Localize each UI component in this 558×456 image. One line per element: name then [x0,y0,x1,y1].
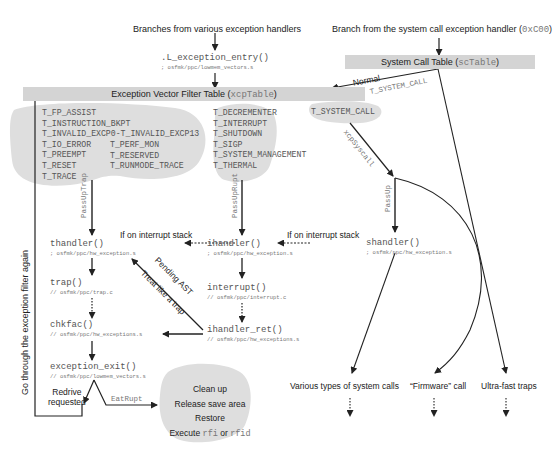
node-interrupt-path: // osfmk/ppc/interrupt.c [207,294,286,301]
node-chkfac-path: // osfmk/ppc/hw_exceptions.s [50,331,142,338]
edge-eatrupt-label: EatRupt [111,395,143,403]
node-exception-exit-path: // osfmk/ppc/lowmem_vectors.s [50,373,146,380]
interrupt-code: T_SIGP [213,140,306,151]
syscall-group: T_SYSTEM_CALL [311,107,375,118]
trap-code: T_RESERVED [110,151,184,162]
header-code: 0xC00 [522,25,549,35]
outcome-firmware-call: “Firmware” call [410,381,466,391]
node-ihandler-ret: ihandler_ret() [207,325,283,335]
node-ihandler-path: ; osfmk/ppc/hw_exception.s [207,250,293,257]
sc-table-code: scTable [458,58,496,68]
trap-code: T_RUNMODE_TRACE [110,161,184,172]
trap-code: T_PERF_MON [110,140,184,151]
trap-code: T_FP_ASSIST [42,108,199,119]
cleanup-step: Restore [160,411,260,426]
node-thandler: thandler() [50,239,104,249]
cleanup-step: Execute rfi or rfid [160,426,260,442]
trap-code: T_INVALID_EXCP0-T_INVALID_EXCP13 [42,129,199,140]
interrupt-code: T_SYSTEM_MANAGEMENT [213,150,306,161]
system-call-table: System Call Table (scTable) [345,55,535,69]
node-trap-path: // osfmk/ppc/trap.c [50,289,113,296]
redrive-line2: requested [48,397,86,407]
cleanup-execute: Execute [169,428,202,438]
trap-code: T_INSTRUCTION_BKPT [42,119,199,130]
edge-go-through-label: Go through the exception filter again [20,250,30,395]
cleanup-step: Clean up [160,382,260,397]
header-system-call-handler: Branch from the system call exception ha… [332,24,552,35]
edge-interrupt-stack-left: If on interrupt stack [120,230,192,240]
edge-passuptrap-label: PassUpTrap [80,173,88,218]
interrupt-group-list: T_DECREMENTER T_INTERRUPT T_SHUTDOWN T_S… [213,108,306,172]
node-chkfac: chkfac() [50,320,93,330]
node-trap: trap() [50,278,82,288]
node-interrupt: interrupt() [207,283,266,293]
node-ihandler: ihandler() [207,239,261,249]
header-text: Branch from the system call exception ha… [332,24,522,34]
cleanup-steps: Clean up Release save area Restore Execu… [160,382,260,441]
node-shandler: shandler() [366,238,420,248]
edge-passup-label: PassUp [384,185,392,212]
interrupt-code: T_INTERRUPT [213,119,306,130]
cleanup-rfi: rfi [203,429,218,439]
xcp-table-label: Exception Vector Filter Table ( [111,89,230,99]
entry-path: ; osfmk/ppc/lowmem_vectors.s [161,64,253,71]
xcp-table-code: xcpTable [231,90,274,100]
exception-vector-filter-table: Exception Vector Filter Table (xcpTable) [23,87,365,101]
cleanup-rfid: rfid [230,429,250,439]
edge-passuprupt-label: PassUpRupt [231,173,239,218]
node-shandler-path: ; osfmk/ppc/hw_exception.s [366,249,452,256]
cleanup-or: or [218,428,230,438]
trap-group-list-right: T_PERF_MON T_RESERVED T_RUNMODE_TRACE [110,140,184,172]
sc-table-label: System Call Table ( [381,57,458,67]
edge-interrupt-stack-right: If on interrupt stack [287,230,359,240]
outcome-ultra-fast-traps: Ultra-fast traps [481,381,537,391]
node-exception-exit: exception_exit() [50,362,136,372]
header-suffix: ) [549,24,552,34]
interrupt-code: T_DECREMENTER [213,108,306,119]
interrupt-code: T_SHUTDOWN [213,129,306,140]
header-exception-handlers: Branches from various exception handlers [133,24,301,34]
outcome-system-calls: Various types of system calls [290,381,399,391]
trap-code: T_TRACE [42,172,199,183]
node-ihandler-ret-path: // osfmk/ppc/hw_exceptions.s [207,336,299,343]
sc-table-suffix: ) [496,57,499,67]
node-thandler-path: ; osfmk/ppc/hw_exception.s [50,250,136,257]
interrupt-code: T_THERMAL [213,161,306,172]
redrive-line1: Redrive [48,387,86,397]
entry-function: .L_exception_entry() [161,53,269,63]
xcp-table-suffix: ) [274,89,277,99]
edge-redrive-label: Redrive requested [48,387,86,407]
cleanup-step: Release save area [160,397,260,412]
